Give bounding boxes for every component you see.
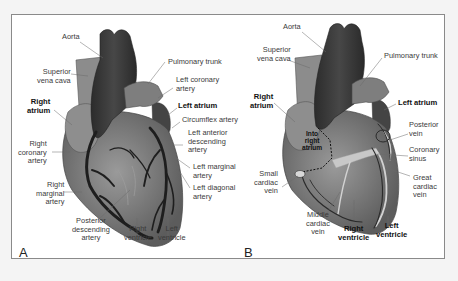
label-a-right-ventricle: Right ventricle — [124, 225, 152, 242]
label-b-right-atrium: Right atrium — [250, 93, 273, 110]
heart-b — [283, 24, 399, 235]
panel-letter-a: A — [19, 245, 28, 260]
label-b-right-ventricle: Right ventricle — [338, 225, 369, 242]
label-b-coronary-sinus: Coronary sinus — [409, 146, 439, 163]
label-b-into-right-atrium: Into right atrium — [302, 130, 322, 152]
label-b-middle-cardiac-vein: Middle cardiac vein — [306, 211, 330, 237]
label-b-aorta: Aorta — [283, 23, 301, 32]
label-b-great-cardiac-vein: Great cardiac vein — [413, 174, 437, 200]
label-a-left-coronary-artery: Left coronary artery — [176, 76, 219, 93]
label-a-right-atrium: Right atrium — [27, 98, 50, 115]
label-a-left-diagonal-artery: Left diagonal artery — [193, 184, 235, 201]
label-b-pulmonary-trunk: Pulmonary trunk — [384, 52, 438, 61]
label-a-circumflex-artery: Circumflex artery — [182, 116, 238, 125]
label-a-left-atrium: Left atrium — [178, 102, 217, 111]
label-a-aorta: Aorta — [62, 33, 80, 42]
label-b-posterior-vein: Posterior vein — [409, 121, 439, 138]
label-a-right-coronary-artery: Right coronary artery — [18, 140, 47, 166]
label-a-right-marginal-artery: Right marginal artery — [36, 181, 64, 207]
label-a-left-anterior-descending-artery: Left anterior descending artery — [188, 129, 227, 155]
label-a-superior-vena-cava: Superior vena cava — [37, 68, 71, 85]
label-b-small-cardiac-vein: Small cardiac vein — [254, 170, 278, 196]
panel-letter-b: B — [244, 245, 253, 260]
label-b-superior-vena-cava: Superior vena cava — [257, 46, 291, 63]
label-a-posterior-descending-artery: Posterior descending artery — [72, 217, 110, 243]
label-a-left-ventricle: Left ventricle — [158, 225, 186, 242]
label-a-pulmonary-trunk: Pulmonary trunk — [168, 58, 222, 67]
label-b-left-ventricle: Left ventricle — [376, 222, 407, 239]
label-b-left-atrium: Left atrium — [398, 99, 437, 108]
label-a-left-marginal-artery: Left marginal artery — [193, 163, 236, 180]
